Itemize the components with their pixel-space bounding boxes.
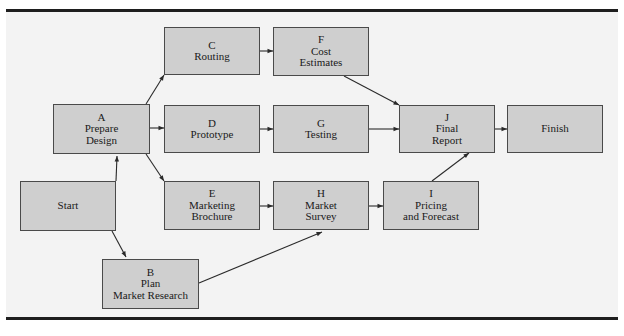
node-d-prototype: DPrototype (164, 105, 260, 153)
node-label-line: Design (86, 135, 117, 147)
node-label-line: Testing (305, 129, 337, 141)
node-finish: Finish (507, 105, 603, 153)
node-c-routing: CRouting (164, 27, 260, 75)
node-b-plan-market-research: BPlanMarket Research (102, 259, 199, 309)
node-g-testing: GTesting (273, 105, 369, 153)
node-label-line: Survey (305, 211, 336, 223)
node-i-pricing-forecast: IPricingand Forecast (383, 181, 479, 230)
node-h-market-survey: HMarketSurvey (273, 181, 369, 230)
node-j-final-report: JFinalReport (399, 105, 495, 153)
node-label-line: Prototype (191, 129, 234, 141)
bottom-rule (6, 317, 618, 320)
node-e-marketing-brochure: EMarketingBrochure (164, 181, 260, 230)
node-label-line: Routing (194, 51, 229, 63)
node-label-line: Brochure (192, 211, 233, 223)
node-a-prepare-design: APrepareDesign (53, 104, 150, 154)
node-f-cost-estimates: FCostEstimates (273, 27, 369, 76)
node-label-line: Market Research (113, 290, 188, 302)
node-label-line: Report (432, 135, 462, 147)
node-label-line: and Forecast (403, 211, 459, 223)
node-label-line: Start (58, 200, 79, 212)
node-start: Start (20, 181, 116, 231)
node-label-line: Finish (541, 123, 569, 135)
node-label-line: Estimates (300, 57, 343, 69)
